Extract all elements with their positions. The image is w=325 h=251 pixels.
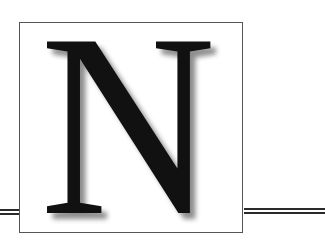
right-rule-top [244,208,325,210]
right-rule-bottom [244,212,325,214]
drop-cap-frame: N [19,22,243,233]
left-rule-bottom [0,213,19,215]
left-rule-top [0,209,19,211]
drop-cap-letter: N [40,25,212,225]
